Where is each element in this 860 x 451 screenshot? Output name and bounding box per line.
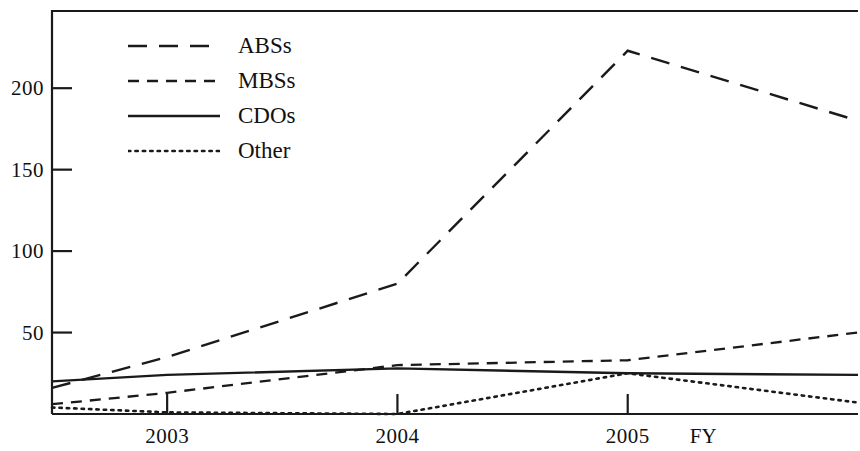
chart-legend: ABSsMBSsCDOsOther xyxy=(128,28,378,168)
long-dashed-line-icon xyxy=(128,39,220,53)
x-axis-title: FY xyxy=(690,424,717,449)
legend-item-abss[interactable]: ABSs xyxy=(128,28,378,63)
legend-item-label: ABSs xyxy=(238,33,292,59)
series-line-mbss xyxy=(52,333,858,405)
y-axis-tick-label: 50 xyxy=(0,320,44,345)
series-line-cdos xyxy=(52,368,858,381)
line-chart: 50100150200 200320042005 FY ABSsMBSsCDOs… xyxy=(0,0,860,451)
legend-item-mbss[interactable]: MBSs xyxy=(128,63,378,98)
y-axis-tick-label: 200 xyxy=(0,76,44,101)
legend-item-label: Other xyxy=(238,138,290,164)
y-axis-tick-label: 150 xyxy=(0,157,44,182)
y-axis-ticks xyxy=(52,88,72,332)
series-line-other xyxy=(52,373,858,414)
x-axis-tick-label: 2004 xyxy=(375,424,419,449)
legend-item-label: CDOs xyxy=(238,103,296,129)
x-axis-tick-label: 2003 xyxy=(145,424,189,449)
dotted-line-icon xyxy=(128,144,220,158)
legend-item-other[interactable]: Other xyxy=(128,133,378,168)
solid-line-icon xyxy=(128,109,220,123)
x-axis-tick-label: 2005 xyxy=(606,424,650,449)
y-axis-tick-label: 100 xyxy=(0,239,44,264)
short-dashed-line-icon xyxy=(128,74,220,88)
legend-item-cdos[interactable]: CDOs xyxy=(128,98,378,133)
x-axis-ticks xyxy=(167,394,628,414)
legend-item-label: MBSs xyxy=(238,68,296,94)
